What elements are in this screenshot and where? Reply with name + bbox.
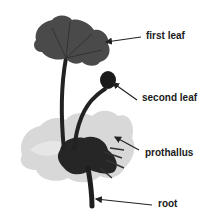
root-shape [88,168,92,206]
root-arrow [96,199,152,205]
first-leaf-arrow [106,37,141,42]
first-leaf-blade [34,16,110,66]
label-second-leaf: second leaf [142,93,197,103]
label-first-leaf: first leaf [146,31,185,41]
second-leaf-coil [100,71,116,89]
label-root: root [158,199,177,209]
second-leaf-arrow [113,83,137,100]
label-prothallus: prothallus [145,148,193,158]
